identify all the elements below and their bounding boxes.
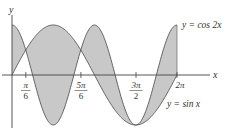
- tick-label-pi6-den: 6: [24, 91, 29, 101]
- tick-label-3pi2-num: 3π: [130, 80, 141, 90]
- tick-label-pi6-num: π: [24, 80, 29, 90]
- tick-label-2pi: 2π: [175, 80, 185, 90]
- tick-label-5pi6-num: 5π: [76, 80, 86, 90]
- sin-curve-label: y = sin x: [166, 99, 201, 109]
- chart: y x π 6 5π 6 3π 2 2π y = cos 2x y = sin …: [0, 0, 229, 136]
- tick-label-5pi6-den: 6: [79, 91, 84, 101]
- tick-label-3pi2-den: 2: [134, 91, 139, 101]
- cos-curve-label: y = cos 2x: [181, 20, 222, 30]
- x-axis-label: x: [212, 69, 218, 80]
- y-axis-label: y: [8, 4, 14, 15]
